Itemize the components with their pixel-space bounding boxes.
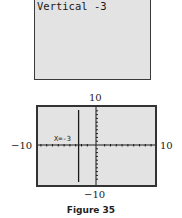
curve-label: X=-3 xyxy=(54,135,71,143)
ymin-label: −10 xyxy=(84,189,105,200)
xmin-label: −10 xyxy=(11,140,32,151)
calculator-home-screen: Vertical -3 xyxy=(34,0,151,80)
ymax-label: 10 xyxy=(89,92,102,103)
xmax-label: 10 xyxy=(160,140,173,151)
home-screen-text: Vertical -3 xyxy=(37,0,107,12)
calculator-graph-screen: X=-3 xyxy=(36,105,157,187)
figure-caption: Figure 35 xyxy=(0,205,182,215)
graph-plot xyxy=(38,107,155,185)
